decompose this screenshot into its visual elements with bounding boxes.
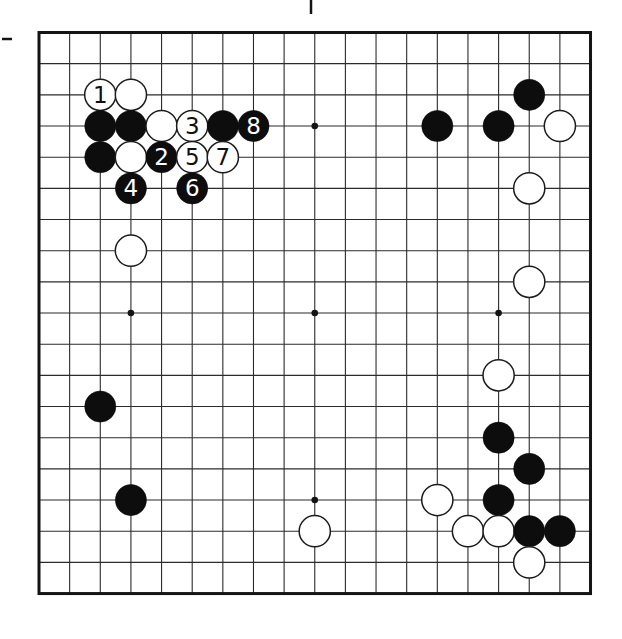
white-stone <box>514 547 545 578</box>
star-point <box>311 497 318 504</box>
black-stone <box>85 391 116 422</box>
white-stone <box>115 142 146 173</box>
stone-move-number: 7 <box>216 144 231 170</box>
black-stone <box>85 110 116 141</box>
stone-move-number: 8 <box>246 113 261 139</box>
white-stone <box>544 110 575 141</box>
black-stone <box>207 110 238 141</box>
black-stone <box>422 110 453 141</box>
black-stone <box>483 422 514 453</box>
star-point <box>311 310 318 317</box>
black-stone <box>483 484 514 515</box>
stone-move-number: 2 <box>154 144 169 170</box>
stone-move-number: 3 <box>185 113 200 139</box>
black-stone <box>115 484 146 515</box>
white-stone <box>483 516 514 547</box>
white-stone <box>514 173 545 204</box>
black-stone <box>483 110 514 141</box>
black-stone <box>115 110 146 141</box>
white-stone <box>146 110 177 141</box>
white-stone <box>514 266 545 297</box>
black-stone <box>85 142 116 173</box>
star-point <box>495 310 502 317</box>
stone-move-number: 5 <box>185 144 200 170</box>
star-point <box>128 310 135 317</box>
white-stone <box>115 79 146 110</box>
black-stone <box>514 453 545 484</box>
black-stone <box>514 79 545 110</box>
black-stone <box>544 516 575 547</box>
white-stone <box>115 235 146 266</box>
star-point <box>311 123 318 130</box>
white-stone <box>452 516 483 547</box>
white-stone <box>299 516 330 547</box>
board-svg: 13825746 <box>0 0 622 639</box>
white-stone <box>483 360 514 391</box>
white-stone <box>422 484 453 515</box>
stone-move-number: 6 <box>185 175 200 201</box>
black-stone <box>514 516 545 547</box>
stone-move-number: 1 <box>93 82 108 108</box>
go-board-diagram: 13825746 <box>0 0 622 639</box>
stone-move-number: 4 <box>124 175 139 201</box>
